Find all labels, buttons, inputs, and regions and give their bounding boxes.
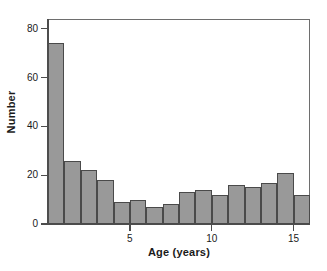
histogram-figure: Number 02040608051015 Age (years): [0, 0, 327, 271]
histogram-bar: [261, 183, 277, 224]
x-axis-tick: [129, 224, 130, 231]
histogram-bar: [195, 190, 211, 224]
y-axis-line: [47, 19, 48, 224]
x-axis-tick-label: 5: [115, 233, 145, 244]
x-axis-title: Age (years): [48, 246, 310, 258]
x-axis-tick-label: 15: [279, 233, 309, 244]
y-axis-tick-label: 40: [0, 121, 38, 131]
y-axis-tick-label: 60: [0, 73, 38, 83]
y-axis-tick: [41, 126, 48, 127]
y-axis-tick-label: 0: [0, 219, 38, 229]
x-axis-tick: [211, 224, 212, 231]
y-axis-tick-label: 20: [0, 170, 38, 180]
histogram-bar: [48, 43, 64, 224]
y-axis-tick: [41, 28, 48, 29]
x-axis-tick: [293, 224, 294, 231]
y-axis-tick: [41, 77, 48, 78]
histogram-bar: [179, 192, 195, 224]
histogram-bar: [277, 173, 293, 224]
histogram-bar: [130, 200, 146, 224]
histogram-bar: [146, 207, 162, 224]
histogram-bar: [294, 195, 310, 224]
x-axis-line: [41, 224, 310, 225]
y-axis-tick: [41, 223, 48, 224]
y-axis-tick: [41, 175, 48, 176]
histogram-bar: [64, 161, 80, 224]
histogram-bar: [212, 195, 228, 224]
y-axis-tick-label: 80: [0, 24, 38, 34]
histogram-bar: [81, 170, 97, 224]
histogram-bar: [228, 185, 244, 224]
histogram-bar: [114, 202, 130, 224]
histogram-bar: [245, 187, 261, 224]
histogram-bar: [97, 180, 113, 224]
histogram-bar: [163, 204, 179, 224]
bars-container: [48, 19, 310, 224]
x-axis-tick-label: 10: [197, 233, 227, 244]
